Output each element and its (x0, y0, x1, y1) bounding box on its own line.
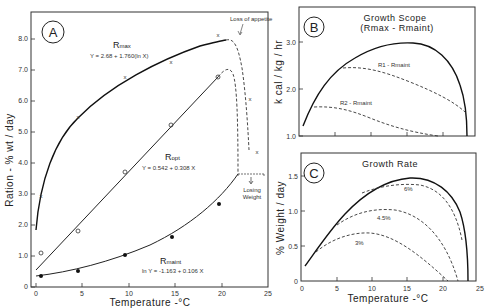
xtick: 25 (476, 285, 484, 292)
panel-a-y-label: Ration - % wt / day (4, 113, 15, 206)
xtick: 0 (34, 290, 38, 297)
r2-rmaint-curve (314, 107, 438, 136)
xtick: 15 (171, 290, 179, 297)
panel-c-x-label: Temperature -°C (348, 293, 429, 304)
growth-scope-curve (303, 43, 467, 136)
xtick: 5 (80, 290, 84, 297)
svg-text:x: x (217, 32, 220, 38)
rmax-markers: x x x x x x x (40, 32, 259, 199)
panel-a-y-ticks: 0 1.0 2.0 3.0 4.0 5.0 6.0 7.0 8.0 (18, 35, 35, 290)
ropt-line (36, 77, 218, 270)
label-3pct: 3% (355, 240, 364, 246)
figure: 0 1.0 2.0 3.0 4.0 5.0 6.0 7.0 8.0 0 5 10… (0, 0, 487, 308)
panel-c-label: C (309, 166, 318, 181)
xtick: 20 (218, 290, 226, 297)
xtick: 0 (300, 285, 304, 292)
ytick: 6.0 (18, 97, 28, 104)
xtick: 25 (264, 290, 272, 297)
xtick: 10 (125, 290, 133, 297)
rmaint-label: Rmaint (160, 256, 182, 266)
ytick: 7.0 (18, 66, 28, 73)
ytick: 4.0 (18, 159, 28, 166)
panel-b-y-ticks: 1.0 2.0 3.0 (286, 39, 303, 140)
r2-rmaint-label: R2 - Rmaint (340, 100, 372, 106)
rmaint-equation: ln Y = -1.163 + 0.106 X (142, 268, 204, 274)
growth-rate-max-curve (305, 178, 468, 281)
ytick: 3.0 (286, 39, 296, 46)
rmax-decline-curve (226, 40, 249, 150)
svg-text:x: x (256, 149, 259, 155)
panel-b-subtitle: (Rmax - Rmaint) (360, 23, 434, 33)
ytick: 5.0 (18, 128, 28, 135)
panel-a-x-label: Temperature -°C (110, 297, 191, 308)
svg-text:x: x (249, 96, 252, 102)
label-6pct: 6% (404, 186, 413, 192)
ytick: 1.0 (288, 208, 298, 215)
xtick: 20 (439, 285, 447, 292)
svg-text:x: x (170, 59, 173, 65)
ytick: 2.0 (286, 86, 296, 93)
loss-of-appetite-label: Loss of appetite (230, 16, 273, 22)
ropt-decline-curve (218, 69, 238, 174)
ytick: 0 (24, 283, 28, 290)
arrow-icon (238, 24, 243, 35)
panel-a-x-ticks: 0 5 10 15 20 25 (34, 283, 272, 297)
panel-c-y-ticks: 0 0.5 1.0 1.5 (288, 173, 305, 285)
ytick: 1.0 (286, 133, 296, 140)
ytick: 2.0 (18, 221, 28, 228)
panel-b: 1.0 2.0 3.0 k cal / kg / hr B Growth Sco… (273, 7, 475, 140)
down-arrow-icon (249, 177, 253, 184)
r1-rmaint-curve (343, 68, 466, 113)
panel-a: 0 1.0 2.0 3.0 4.0 5.0 6.0 7.0 8.0 0 5 10… (4, 12, 273, 308)
ytick: 0.5 (288, 243, 298, 250)
panel-c-title: Growth Rate (362, 159, 418, 169)
growth-rate-3pct-curve (316, 233, 448, 281)
svg-text:x: x (40, 193, 43, 199)
panel-b-title: Growth Scope (363, 13, 426, 23)
xtick: 5 (335, 285, 339, 292)
label-4-5pct: 4.5% (377, 215, 391, 221)
panel-c-y-label: % Weight / day (275, 181, 286, 255)
panel-c-x-ticks: 0 5 10 15 20 25 (300, 277, 484, 292)
xtick: 15 (403, 285, 411, 292)
r1-rmaint-label: R1 - Rmaint (378, 62, 410, 68)
losing-weight-label-2: Weight (243, 194, 262, 200)
ytick: 1.5 (288, 173, 298, 180)
xtick: 10 (368, 285, 376, 292)
ropt-equation: Y = 0.542 + 0.308 X (142, 165, 195, 171)
ytick: 3.0 (18, 190, 28, 197)
rmax-label: Rmax (113, 40, 131, 50)
svg-text:x: x (77, 114, 80, 120)
ytick: 1.0 (18, 252, 28, 259)
rmax-equation: Y = 2.68 + 1.760(ln X) (90, 53, 149, 59)
panel-b-label: B (310, 20, 319, 35)
panel-b-y-label: k cal / kg / hr (273, 40, 284, 104)
rmaint-curve (36, 174, 238, 276)
rmax-curve (36, 40, 226, 230)
svg-text:x: x (124, 74, 127, 80)
ropt-label: Ropt (165, 152, 180, 162)
ytick: 8.0 (18, 35, 28, 42)
losing-weight-label-1: Losing (243, 187, 261, 193)
panel-c: 0 0.5 1.0 1.5 0 5 10 15 20 25 Temperatur… (275, 153, 484, 304)
losing-weight-bracket (238, 174, 264, 177)
ytick: 0 (294, 278, 298, 285)
panel-a-label: A (49, 25, 58, 40)
rmaint-markers (39, 202, 221, 278)
